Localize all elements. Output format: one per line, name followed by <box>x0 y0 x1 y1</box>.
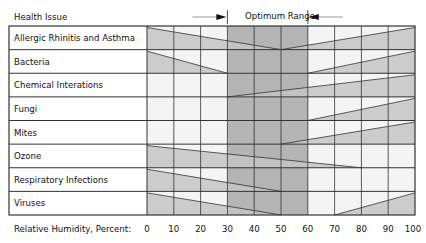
x-tick-label: 40 <box>249 224 260 234</box>
row-label: Viruses <box>14 198 46 208</box>
x-tick-label: 50 <box>276 224 287 234</box>
x-tick-label: 100 <box>405 224 421 234</box>
row-label: Respiratory Infections <box>14 175 108 185</box>
x-tick-label: 80 <box>356 224 367 234</box>
row-label: Mites <box>14 128 37 138</box>
x-tick-label: 0 <box>144 224 149 234</box>
x-tick-label: 70 <box>329 224 340 234</box>
row-label: Fungi <box>14 104 37 114</box>
x-axis-ticks: 0102030405060708090100 <box>144 224 421 234</box>
x-tick-label: 30 <box>222 224 233 234</box>
x-tick-label: 60 <box>302 224 313 234</box>
x-tick-label: 10 <box>168 224 179 234</box>
x-axis-label: Relative Humidity, Percent: <box>14 224 131 234</box>
x-axis: Relative Humidity, Percent: 010203040506… <box>14 224 421 234</box>
chart-header: Health Issue Optimum Range <box>14 10 343 24</box>
row-label: Bacteria <box>14 57 50 67</box>
humidity-health-chart: Allergic Rhinitis and AsthmaBacteriaChem… <box>0 0 426 243</box>
health-issue-header: Health Issue <box>14 12 67 22</box>
row-label: Allergic Rhinitis and Asthma <box>14 33 135 43</box>
x-tick-label: 20 <box>195 224 206 234</box>
x-tick-label: 90 <box>383 224 394 234</box>
row-label: Chemical Interations <box>14 80 104 90</box>
arrow-right-icon <box>216 14 226 20</box>
row-label: Ozone <box>14 151 41 161</box>
optimum-range-title: Optimum Range <box>245 11 315 21</box>
